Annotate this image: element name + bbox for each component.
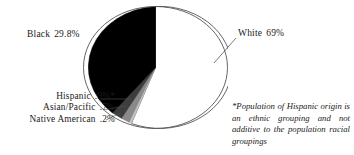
pie-label-asian-pacific: Asian/Pacific.7% — [3, 102, 115, 113]
pie-small-labels: Hispanic.9%* Asian/Pacific.7% Native Ame… — [3, 91, 115, 125]
pie-label-native-american-name: Native American — [29, 114, 95, 124]
pie-label-black-value: 29.8% — [54, 29, 80, 39]
pie-label-native-american-value: .2% — [100, 114, 115, 124]
pie-label-white-value: 69% — [266, 28, 284, 38]
pie-label-asian-pacific-value: .7% — [100, 102, 115, 112]
pie-label-native-american: Native American.2% — [3, 114, 115, 125]
pie-label-asian-pacific-name: Asian/Pacific — [43, 102, 96, 112]
chart-footnote: *Population of Hispanic origin is an eth… — [232, 101, 350, 147]
pie-label-hispanic: Hispanic.9%* — [3, 91, 115, 102]
pie-label-hispanic-value: .9% — [95, 91, 110, 101]
pie-label-white-name: White — [238, 28, 262, 38]
pie-label-hispanic-asterisk: * — [110, 91, 115, 101]
pie-label-black-name: Black — [27, 29, 50, 39]
pie-label-hispanic-name: Hispanic — [56, 91, 91, 101]
pie-label-white: White69% — [238, 28, 284, 39]
pie-label-black: Black29.8% — [27, 29, 80, 40]
pie-chart-figure: Black29.8% White69% Hispanic.9%* Asian/P… — [0, 0, 354, 155]
